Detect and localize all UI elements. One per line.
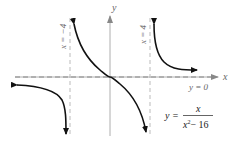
asymptote-horizontal-label: y = 0 bbox=[188, 82, 209, 92]
svg-text:x2− 16: x2− 16 bbox=[182, 119, 209, 130]
x-axis-label: x bbox=[222, 71, 228, 82]
equation-lhs: y = bbox=[164, 110, 179, 121]
function-graph: y x x = −4 x = 4 y = 0 y = x x2− 16 bbox=[0, 0, 240, 144]
y-axis-label: y bbox=[111, 2, 117, 13]
curve-left-branch bbox=[17, 85, 66, 134]
equation: y = x x2− 16 bbox=[164, 103, 213, 130]
asymptote-right-label: x = 4 bbox=[138, 24, 148, 45]
equation-denominator-rest: − 16 bbox=[190, 119, 208, 130]
asymptote-left-label: x = −4 bbox=[58, 23, 68, 50]
svg-text:y =: y = bbox=[164, 110, 179, 121]
equation-numerator: x bbox=[195, 103, 201, 114]
curve-right-branch bbox=[154, 24, 197, 70]
